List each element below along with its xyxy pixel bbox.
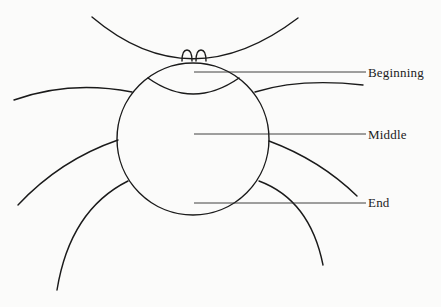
leg-right-3 bbox=[259, 181, 323, 265]
leg-left-1 bbox=[14, 88, 132, 101]
spider-body bbox=[117, 63, 269, 215]
leg-left-3 bbox=[57, 181, 128, 290]
spider-diagram bbox=[0, 0, 441, 307]
label-beginning: Beginning bbox=[368, 66, 424, 79]
leg-right-2 bbox=[269, 141, 357, 196]
top-legs-arc bbox=[92, 17, 298, 59]
head-segment bbox=[148, 78, 239, 94]
label-middle: Middle bbox=[368, 128, 407, 141]
label-end: End bbox=[368, 196, 390, 209]
leg-left-2 bbox=[18, 140, 118, 205]
leg-right-1 bbox=[255, 83, 363, 92]
